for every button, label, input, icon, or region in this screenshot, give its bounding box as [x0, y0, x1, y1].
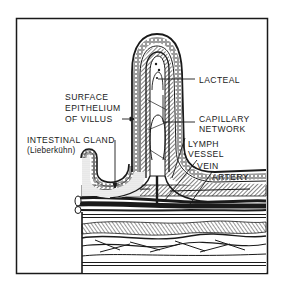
villus-diagram: SURFACE EPITHELIUM OF VILLUS INTESTINAL …	[0, 0, 282, 290]
label-capillary-network-line1: CAPILLARY	[199, 114, 250, 124]
label-surface-epithelium-line3: OF VILLUS	[65, 114, 113, 124]
label-lymph-vessel-line2: VESSEL	[188, 149, 224, 159]
label-lacteal: LACTEAL	[199, 75, 240, 85]
label-artery: ARTERY	[212, 172, 249, 182]
label-vein: VEIN	[197, 161, 219, 171]
label-lymph-vessel-line1: LYMPH	[188, 139, 219, 149]
label-surface-epithelium-line1: SURFACE	[65, 92, 108, 102]
label-intestinal-gland: INTESTINAL GLAND	[27, 135, 115, 145]
label-surface-epithelium-line2: EPITHELIUM	[65, 103, 121, 113]
submucosa-layers	[82, 212, 266, 274]
label-capillary-network-line2: NETWORK	[199, 124, 246, 134]
label-intestinal-gland-sub: (Lieberkühn)	[27, 146, 75, 155]
